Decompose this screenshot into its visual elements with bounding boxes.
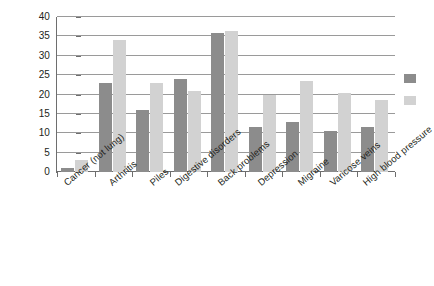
x-axis-category-labels: Cancer (not lung)ArthritisPilesDigestive… — [0, 178, 416, 286]
legend-swatch-series-2 — [404, 96, 416, 105]
x-tick-mark — [282, 172, 283, 177]
y-tick-label: 10 — [39, 128, 50, 138]
bar-group — [132, 17, 170, 172]
bar — [300, 81, 313, 172]
bar-group — [57, 17, 95, 172]
y-tick-label: 20 — [39, 90, 50, 100]
x-tick-mark — [395, 172, 396, 177]
y-tick-label: 35 — [39, 31, 50, 41]
x-tick-mark — [57, 172, 58, 177]
y-tick-label: 40 — [39, 12, 50, 22]
bar — [113, 40, 126, 172]
legend-swatch-series-1 — [404, 74, 416, 83]
x-tick-mark — [245, 172, 246, 177]
x-tick-mark — [132, 172, 133, 177]
bar — [150, 83, 163, 172]
bar — [263, 95, 276, 173]
bar-group — [282, 17, 320, 172]
y-tick-label: 30 — [39, 51, 50, 61]
bar — [174, 79, 187, 172]
legend — [398, 74, 416, 116]
bar-group — [320, 17, 358, 172]
y-tick-label: 5 — [44, 148, 50, 158]
y-tick-label: 25 — [39, 70, 50, 80]
x-tick-mark — [95, 172, 96, 177]
bar — [136, 110, 149, 172]
x-tick-mark — [357, 172, 358, 177]
y-tick-label: 15 — [39, 109, 50, 119]
bar — [225, 31, 238, 172]
bar-group — [170, 17, 208, 172]
x-tick-mark — [207, 172, 208, 177]
y-tick-label: 0 — [44, 167, 50, 177]
y-axis-labels: 0510152025303540 — [24, 0, 50, 190]
